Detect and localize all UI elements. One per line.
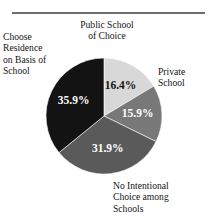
category-label-choose-residence: Choose Residence on Basis of School xyxy=(3,31,63,77)
slice-value-choose-residence: 35.9% xyxy=(58,94,90,106)
slice-value-public-school-of-choice: 16.4% xyxy=(105,79,137,91)
category-label-public-school-of-choice: Public School of Choice xyxy=(63,19,151,42)
pie-chart-figure: 16.4% 15.9% 31.9% 35.9% Public School of… xyxy=(0,0,214,223)
category-label-no-intentional-choice: No Intentional Choice among Schools xyxy=(113,180,213,214)
slice-value-no-intentional-choice: 31.9% xyxy=(92,142,124,154)
category-label-private-school: Private School xyxy=(158,66,213,89)
slice-value-private-school: 15.9% xyxy=(122,107,154,119)
